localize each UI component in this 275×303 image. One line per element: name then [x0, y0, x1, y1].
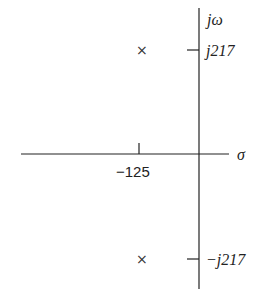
imag-tick-label-pos: j217 — [204, 42, 235, 60]
real-tick-label: −125 — [116, 163, 150, 180]
imag-tick-label-neg: −j217 — [206, 251, 246, 269]
pole-lower-marker: × — [136, 251, 148, 267]
s-plane-diagram: jω σ −125 j217 −j217 × × — [0, 0, 275, 303]
imag-axis-label: jω — [205, 11, 223, 29]
real-axis-label: σ — [237, 146, 246, 163]
pole-upper-marker: × — [136, 42, 148, 58]
